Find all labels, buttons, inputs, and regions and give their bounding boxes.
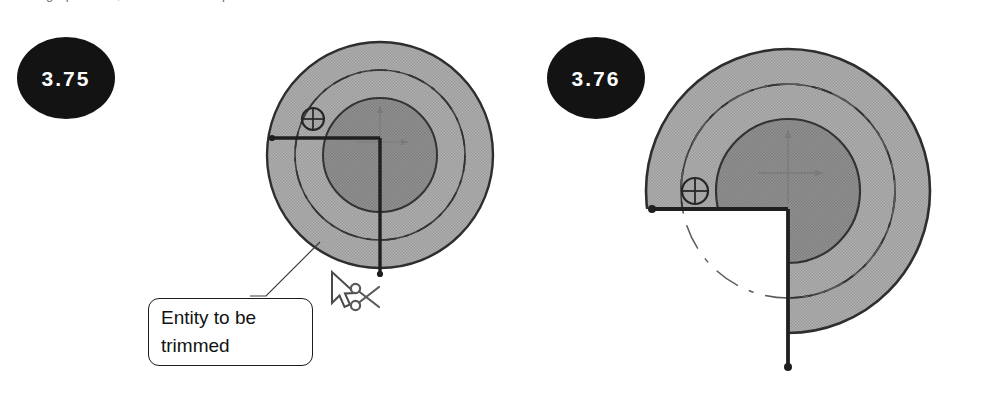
point-marker-crosshair-icon	[302, 108, 324, 130]
cad-sketch-after-trim	[615, 18, 945, 388]
endpoint-node-left	[648, 205, 656, 213]
step-badge-label: 3.76	[572, 68, 621, 89]
callout-entity-to-be-trimmed: Entity to be trimmed	[148, 298, 313, 366]
top-text-remnant: trimming operation, as shown in steps	[0, 0, 400, 5]
endpoint-node-bottom	[784, 363, 792, 371]
endpoint-node-left	[269, 135, 275, 141]
point-marker-crosshair-icon	[682, 178, 708, 204]
step-badge-label: 3.75	[42, 68, 91, 89]
callout-line-1: Entity to be	[161, 304, 300, 332]
callout-line-2: trimmed	[161, 332, 300, 360]
step-badge-3-75: 3.75	[17, 37, 115, 119]
scissors-icon	[351, 284, 379, 310]
document-page: trimming operation, as shown in steps 3.…	[0, 0, 983, 398]
trim-cursor-group	[327, 268, 393, 330]
